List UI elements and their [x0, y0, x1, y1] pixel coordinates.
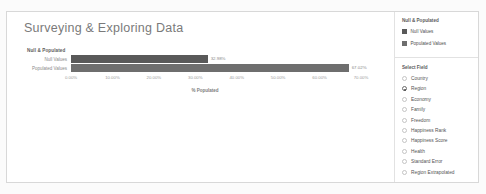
radio-checked-icon[interactable]	[402, 86, 407, 91]
radio-unchecked-icon[interactable]	[402, 149, 407, 154]
select-field-title: Select Field	[402, 65, 428, 70]
x-axis-tick: 50.00%	[271, 75, 286, 80]
select-field-panel: Select Field CountryRegionEconomyFamilyF…	[394, 57, 478, 182]
field-option-label: Health	[411, 149, 425, 154]
x-axis-tick: 60.00%	[312, 75, 327, 80]
category-axis: Null Values Populated Values	[25, 55, 69, 79]
radio-unchecked-icon[interactable]	[402, 128, 407, 133]
x-axis-tick: 70.00%	[354, 75, 369, 80]
bar-value-label: 32.98%	[211, 56, 226, 61]
x-axis-ticks: 0.00%10.00%20.00%30.00%40.00%50.00%60.00…	[71, 75, 361, 84]
x-axis-tick: 20.00%	[147, 75, 162, 80]
field-option-country[interactable]: Country	[402, 76, 428, 81]
x-axis-tick: 30.00%	[188, 75, 203, 80]
field-option-economy[interactable]: Economy	[402, 97, 431, 102]
chart-legend-title: Null & Populated	[27, 48, 65, 53]
field-option-freedom[interactable]: Freedom	[402, 118, 430, 123]
report-frame: Surveying & Exploring Data Null & Popula…	[6, 11, 479, 183]
field-option-label: Standard Error	[411, 159, 442, 164]
bar-null-values[interactable]	[71, 55, 208, 63]
radio-unchecked-icon[interactable]	[402, 138, 407, 143]
field-option-label: Family	[411, 107, 425, 112]
field-option-label: Region	[411, 86, 426, 91]
radio-unchecked-icon[interactable]	[402, 118, 407, 123]
x-axis-tick: 10.00%	[105, 75, 120, 80]
legend-item[interactable]: Null Values	[402, 29, 433, 34]
page-title: Surveying & Exploring Data	[24, 21, 183, 35]
field-option-standard-error[interactable]: Standard Error	[402, 159, 442, 164]
bar-value-label: 67.02%	[352, 65, 367, 70]
field-option-region[interactable]: Region	[402, 86, 426, 91]
category-label: Populated Values	[32, 66, 67, 71]
field-option-label: Freedom	[411, 118, 430, 123]
radio-unchecked-icon[interactable]	[402, 159, 407, 164]
category-label: Null Values	[45, 57, 67, 62]
x-axis-tick: 40.00%	[229, 75, 244, 80]
legend-swatch-icon	[402, 41, 407, 46]
legend-panel: Null & Populated Null ValuesPopulated Va…	[394, 12, 478, 57]
bar-populated-values[interactable]	[71, 64, 349, 72]
radio-unchecked-icon[interactable]	[402, 107, 407, 112]
field-option-family[interactable]: Family	[402, 107, 425, 112]
field-option-label: Happiness Score	[411, 138, 448, 143]
radio-unchecked-icon[interactable]	[402, 170, 407, 175]
field-option-label: Happiness Rank	[411, 128, 446, 133]
legend-item-label: Populated Values	[411, 41, 447, 46]
field-option-happiness-score[interactable]: Happiness Score	[402, 138, 448, 143]
x-axis-title: % Populated	[25, 88, 385, 93]
radio-unchecked-icon[interactable]	[402, 76, 407, 81]
side-panels: Null & Populated Null ValuesPopulated Va…	[394, 12, 478, 182]
legend-item[interactable]: Populated Values	[402, 41, 446, 46]
radio-unchecked-icon[interactable]	[402, 97, 407, 102]
legend-swatch-icon	[402, 29, 407, 34]
x-axis-tick: 0.00%	[65, 75, 77, 80]
legend-item-label: Null Values	[411, 29, 434, 34]
field-option-label: Country	[411, 76, 428, 81]
bar-chart-visual[interactable]: Surveying & Exploring Data Null & Popula…	[7, 12, 396, 182]
field-option-label: Economy	[411, 97, 431, 102]
field-option-label: Region Extrapolated	[411, 170, 454, 175]
plot-area: Null Values Populated Values 32.98% 67.0…	[25, 55, 385, 79]
legend-panel-title: Null & Populated	[402, 18, 439, 23]
field-option-happiness-rank[interactable]: Happiness Rank	[402, 128, 446, 133]
report-canvas: Surveying & Exploring Data Null & Popula…	[0, 0, 486, 194]
field-option-health[interactable]: Health	[402, 149, 425, 154]
field-option-region-extrapolated[interactable]: Region Extrapolated	[402, 170, 454, 175]
